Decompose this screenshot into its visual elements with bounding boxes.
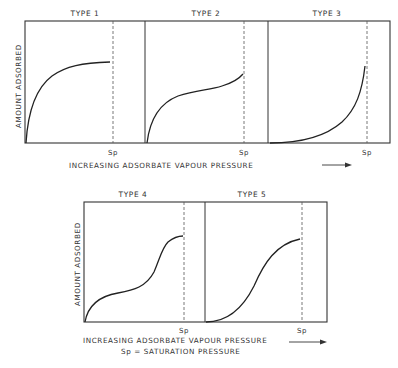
sp-label: Sp [297, 327, 307, 335]
sp-label: Sp [179, 327, 189, 335]
isotherm-curve-type-3 [270, 66, 365, 143]
sp-label: Sp [108, 149, 118, 157]
panel-title-type-3: TYPE 3 [312, 9, 342, 18]
x-axis-label: INCREASING ADSORBATE VAPOUR PRESSURE [83, 336, 267, 345]
sp-label: Sp [239, 149, 249, 157]
arrow-right-icon [322, 163, 352, 168]
y-axis-label: AMOUNT ADSORBED [73, 222, 82, 306]
panel-title-type-4: TYPE 4 [118, 190, 148, 199]
panel-title-type-1: TYPE 1 [70, 9, 100, 18]
sp-label: Sp [362, 149, 372, 157]
isotherm-curve-type-2 [147, 74, 243, 143]
isotherm-curve-type-4 [85, 236, 183, 322]
top-row: TYPE 1 TYPE 2 TYPE 3 Sp Sp Sp AMOUNT ADS… [14, 9, 390, 170]
isotherm-curve-type-1 [26, 62, 110, 143]
bottom-row: TYPE 4 TYPE 5 Sp Sp AMOUNT ADSORBED INCR… [73, 190, 327, 356]
y-axis-label: AMOUNT ADSORBED [14, 44, 23, 128]
adsorption-isotherms-diagram: TYPE 1 TYPE 2 TYPE 3 Sp Sp Sp AMOUNT ADS… [0, 0, 398, 368]
x-axis-label: INCREASING ADSORBATE VAPOUR PRESSURE [69, 161, 253, 170]
isotherm-curve-type-5 [206, 239, 300, 322]
arrow-right-icon [289, 340, 327, 345]
top-row-frame [25, 21, 390, 143]
panel-title-type-5: TYPE 5 [237, 190, 267, 199]
panel-title-type-2: TYPE 2 [191, 9, 221, 18]
saturation-pressure-note: Sp = SATURATION PRESSURE [121, 347, 241, 356]
